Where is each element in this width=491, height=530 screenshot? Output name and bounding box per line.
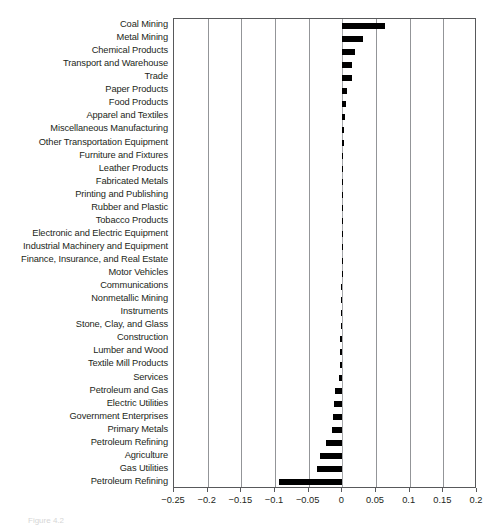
category-label: Fabricated Metals [0,176,168,186]
gridline [443,19,444,487]
category-label: Agriculture [0,450,168,460]
x-axis-tick [173,488,174,492]
bar [339,375,342,381]
bar [279,479,342,485]
bar [340,336,342,342]
gridline [241,19,242,487]
x-axis-tick [442,488,443,492]
category-label: Tobacco Products [0,215,168,225]
bar [340,362,343,368]
gridline [410,19,411,487]
gridline [208,19,209,487]
category-label: Coal Mining [0,19,168,29]
bar [342,114,345,120]
category-label: Instruments [0,306,168,316]
bar [342,205,343,211]
bar [342,88,347,94]
bar [333,414,342,420]
bar [320,453,342,459]
bar [342,218,343,224]
category-label: Apparel and Textiles [0,110,168,120]
x-axis-tick [476,488,477,492]
bar [326,440,343,446]
bar [335,388,342,394]
category-label: Finance, Insurance, and Real Estate [0,254,168,264]
x-axis-tick [207,488,208,492]
bar [342,244,343,250]
plot-area [173,18,476,488]
category-label: Lumber and Wood [0,345,168,355]
bar [342,166,343,172]
gridline [309,19,310,487]
category-label: Gas Utilities [0,463,168,473]
bar [341,323,343,329]
category-label: Nonmetallic Mining [0,293,168,303]
category-label: Communications [0,280,168,290]
category-label: Leather Products [0,163,168,173]
category-label: Government Enterprises [0,411,168,421]
x-axis-tick [308,488,309,492]
bar [342,127,344,133]
bar [342,101,346,107]
category-label: Services [0,372,168,382]
category-label-column: Coal MiningMetal MiningChemical Products… [0,18,168,488]
bar [342,258,343,264]
category-label: Petroleum Refining [0,476,168,486]
x-axis-tick [240,488,241,492]
bar [342,271,343,277]
category-label: Paper Products [0,84,168,94]
figure-container: Coal MiningMetal MiningChemical Products… [0,0,491,530]
bar [317,466,343,472]
category-label: Petroleum Refining [0,437,168,447]
category-label: Furniture and Fixtures [0,150,168,160]
category-label: Textile Mill Products [0,358,168,368]
bar [342,140,343,146]
category-label: Miscellaneous Manufacturing [0,123,168,133]
bar [342,192,343,198]
category-label: Motor Vehicles [0,267,168,277]
category-label: Metal Mining [0,32,168,42]
bar [342,231,343,237]
bar [342,23,385,29]
bar [341,284,342,290]
bar [342,49,355,55]
bar [342,75,352,81]
bar [340,349,342,355]
bar [342,36,363,42]
category-label: Primary Metals [0,424,168,434]
category-label: Printing and Publishing [0,189,168,199]
bar [332,427,343,433]
x-axis-tick [274,488,275,492]
x-axis-tick [409,488,410,492]
category-label: Electric Utilities [0,398,168,408]
x-axis-tick [375,488,376,492]
category-label: Construction [0,332,168,342]
bar [334,401,342,407]
bar [342,179,343,185]
gridline [376,19,377,487]
category-label: Other Transportation Equipment [0,137,168,147]
bar [342,153,343,159]
x-axis-tick-label: 0.2 [456,495,491,505]
category-label: Transport and Warehouse [0,58,168,68]
category-label: Industrial Machinery and Equipment [0,241,168,251]
category-label: Trade [0,71,168,81]
category-label: Petroleum and Gas [0,385,168,395]
category-label: Chemical Products [0,45,168,55]
category-label: Food Products [0,97,168,107]
category-label: Electronic and Electric Equipment [0,228,168,238]
category-label: Rubber and Plastic [0,202,168,212]
bar [342,62,352,68]
x-axis-tick [341,488,342,492]
category-label: Stone, Clay, and Glass [0,319,168,329]
bar [341,297,342,303]
figure-caption: Figure 4.2 [28,516,64,525]
bar [341,310,342,316]
gridline [275,19,276,487]
